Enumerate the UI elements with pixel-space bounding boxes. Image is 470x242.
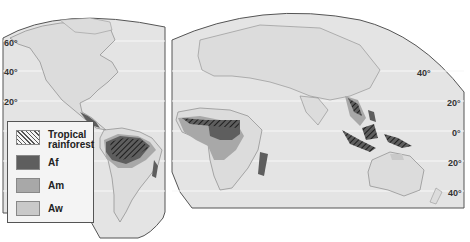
legend-label-af: Af — [48, 158, 59, 168]
map-legend: Tropical rainforest Af Am Aw — [7, 121, 94, 223]
latitude-label-40n: 40° — [4, 67, 18, 77]
am-swatch-icon — [16, 178, 40, 193]
legend-item-af: Af — [16, 155, 59, 170]
latitude-label-60n: 60° — [4, 38, 18, 48]
latitude-label-0: 0° — [452, 128, 461, 138]
aw-swatch-icon — [16, 201, 40, 216]
legend-item-aw: Aw — [16, 201, 63, 216]
latitude-label-40n-right: 40° — [417, 68, 431, 78]
eastern-hemisphere-lobe — [172, 13, 464, 208]
latitude-label-20s-right: 20° — [448, 158, 462, 168]
legend-item-am: Am — [16, 178, 64, 193]
legend-label-line2: rainforest — [48, 140, 94, 150]
latitude-label-40s-right: 40° — [448, 188, 462, 198]
legend-item-tropical-rainforest: Tropical rainforest — [16, 130, 94, 150]
hatch-swatch-icon — [16, 130, 40, 145]
legend-label-am: Am — [48, 181, 64, 191]
latitude-label-20n: 20° — [4, 97, 18, 107]
latitude-label-20n-right: 20° — [447, 98, 461, 108]
af-swatch-icon — [16, 155, 40, 170]
legend-label-aw: Aw — [48, 204, 63, 214]
